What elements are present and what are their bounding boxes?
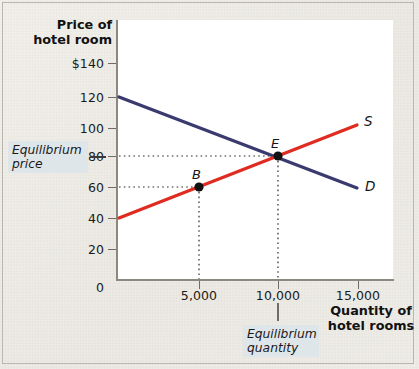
equilibrium-quantity-leader-line bbox=[277, 303, 279, 321]
y-tick-mark-140 bbox=[108, 63, 116, 64]
y-axis-line bbox=[116, 20, 118, 281]
x-axis-title-line-2: hotel rooms bbox=[325, 318, 417, 333]
x-axis-line bbox=[116, 279, 394, 281]
supply-demand-figure: Price of hotel room Quantity of hotel ro… bbox=[0, 0, 419, 369]
y-tick-mark-100 bbox=[108, 128, 116, 129]
y-axis-title-line-1: Price of bbox=[28, 17, 112, 32]
point-label-b: B bbox=[192, 167, 201, 182]
y-tick-label-60: 60 bbox=[32, 180, 104, 195]
equilibrium-price-annotation: Equilibrium price bbox=[8, 141, 88, 173]
y-tick-mark-40 bbox=[108, 218, 116, 219]
y-axis-title-line-2: hotel room bbox=[28, 32, 112, 47]
x-tick-label-5000: 5,000 bbox=[167, 288, 231, 303]
equilibrium-price-line-2: price bbox=[12, 157, 84, 171]
equilibrium-quantity-line-2: quantity bbox=[247, 341, 315, 355]
y-tick-label-0: 0 bbox=[32, 280, 104, 295]
equilibrium-quantity-annotation: Equilibrium quantity bbox=[243, 325, 319, 357]
y-tick-mark-80 bbox=[108, 156, 116, 157]
x-tick-label-10000: 10,000 bbox=[246, 288, 310, 303]
y-tick-label-140: $140 bbox=[32, 56, 104, 71]
y-tick-label-20: 20 bbox=[32, 242, 104, 257]
x-tick-label-15000: 15,000 bbox=[326, 288, 390, 303]
y-tick-mark-20 bbox=[108, 249, 116, 250]
y-tick-mark-60 bbox=[108, 187, 116, 188]
y-tick-label-100: 100 bbox=[32, 121, 104, 136]
equilibrium-price-line-1: Equilibrium bbox=[12, 143, 84, 157]
x-axis-title: Quantity of hotel rooms bbox=[325, 303, 417, 333]
equilibrium-price-leader-line bbox=[90, 156, 106, 158]
y-axis-title: Price of hotel room bbox=[28, 17, 112, 47]
y-tick-label-120: 120 bbox=[32, 90, 104, 105]
plot-area bbox=[118, 20, 393, 280]
y-tick-mark-120 bbox=[108, 97, 116, 98]
supply-curve-label: S bbox=[364, 113, 373, 129]
x-axis-title-line-1: Quantity of bbox=[325, 303, 417, 318]
equilibrium-quantity-line-1: Equilibrium bbox=[247, 327, 315, 341]
point-label-equilibrium: E bbox=[271, 136, 279, 151]
y-tick-label-40: 40 bbox=[32, 211, 104, 226]
demand-curve-label: D bbox=[365, 178, 375, 194]
